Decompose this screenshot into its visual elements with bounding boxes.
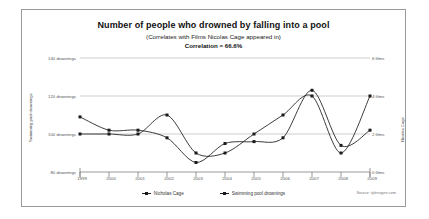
data-point-marker	[108, 129, 111, 132]
series-line	[80, 95, 370, 156]
data-point-marker	[282, 114, 285, 117]
legend-marker-icon	[220, 191, 229, 196]
plot-area: Swimming pool drownings Nicolas Cage 140…	[22, 10, 407, 208]
data-point-marker	[79, 133, 82, 136]
data-point-marker	[195, 152, 198, 155]
source-credit: Source: tylervigen.com	[356, 190, 396, 195]
legend-marker-icon	[142, 191, 151, 196]
chart-plot-svg	[22, 10, 407, 208]
data-point-marker	[253, 133, 256, 136]
data-point-marker	[79, 115, 82, 118]
data-point-marker	[195, 161, 198, 164]
legend-label: Swimming pool drownings	[232, 191, 285, 196]
data-point-marker	[166, 114, 169, 117]
legend-item-nicholas-cage[interactable]: Nicholas Cage	[142, 191, 184, 196]
data-point-marker	[137, 129, 140, 132]
x-axis-ticks	[80, 168, 370, 177]
data-point-marker	[340, 152, 343, 155]
data-point-marker	[224, 152, 227, 155]
data-point-marker	[340, 144, 343, 147]
chart-legend: Nicholas Cage Swimming pool drownings	[22, 191, 405, 196]
data-point-marker	[311, 95, 314, 98]
chart-card: Number of people who drowned by falling …	[21, 9, 406, 207]
data-point-marker	[369, 95, 372, 98]
legend-label: Nicholas Cage	[154, 191, 184, 196]
data-point-marker	[369, 129, 372, 132]
legend-item-pool-drownings[interactable]: Swimming pool drownings	[220, 191, 285, 196]
data-point-marker	[137, 133, 140, 136]
data-point-marker	[282, 136, 285, 139]
data-point-marker	[224, 142, 227, 145]
data-point-marker	[166, 136, 169, 139]
data-point-marker	[311, 89, 314, 92]
data-point-marker	[108, 133, 111, 136]
series-layer	[79, 89, 372, 164]
data-point-marker	[253, 140, 256, 143]
